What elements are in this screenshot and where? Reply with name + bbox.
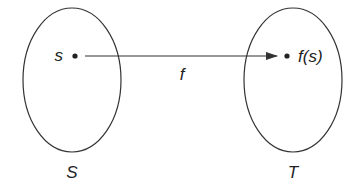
mapping-arrow: f [85,56,277,84]
point-s: s [55,46,78,65]
set-T: T [244,8,342,182]
function-mapping-diagram: S T s f f(s) [0,0,359,191]
set-T-label: T [288,163,300,182]
point-s-dot [72,53,77,58]
set-S-label: S [66,163,78,182]
point-s-label: s [55,46,64,65]
point-fs-label: f(s) [298,47,323,66]
arrow-label-f: f [180,65,187,84]
point-fs: f(s) [284,47,322,66]
set-S: S [23,8,121,182]
set-S-ellipse [23,8,121,152]
set-T-ellipse [244,8,342,152]
point-fs-dot [284,53,289,58]
